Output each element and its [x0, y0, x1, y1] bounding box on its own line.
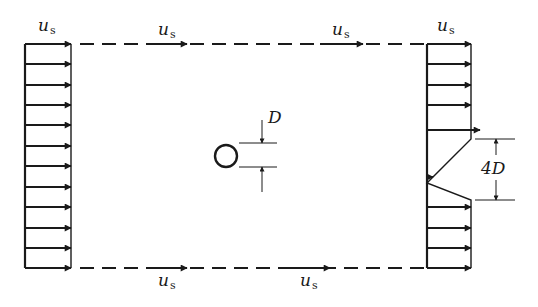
control-volume-diagram: usususususus D 4D [0, 0, 538, 307]
inlet-velocity-profile [25, 44, 71, 268]
velocity-label-top-right: us [332, 19, 350, 41]
wake-width-label: 4D [480, 158, 506, 178]
cylinder-icon [215, 145, 237, 167]
diameter-label: D [267, 107, 282, 127]
outlet-velocity-profile [427, 44, 480, 268]
velocity-label-bottom-mid: us [158, 270, 176, 292]
diameter-dimension [239, 120, 277, 192]
velocity-label-inlet-top: us [38, 15, 56, 37]
velocity-labels: usususususus [38, 15, 455, 292]
velocity-label-top-mid: us [158, 19, 176, 41]
velocity-label-outlet-top: us [437, 15, 455, 37]
velocity-label-bottom-right: us [300, 270, 318, 292]
